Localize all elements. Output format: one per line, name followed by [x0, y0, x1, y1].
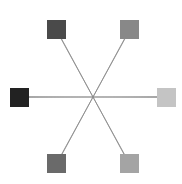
node-square-top-right — [120, 20, 139, 39]
node-square-bottom-left — [47, 154, 66, 173]
star-diagram — [0, 0, 182, 184]
node-square-left — [10, 88, 29, 107]
node-square-top-left — [47, 20, 66, 39]
node-square-bottom-right — [120, 154, 139, 173]
node-square-right — [157, 88, 176, 107]
